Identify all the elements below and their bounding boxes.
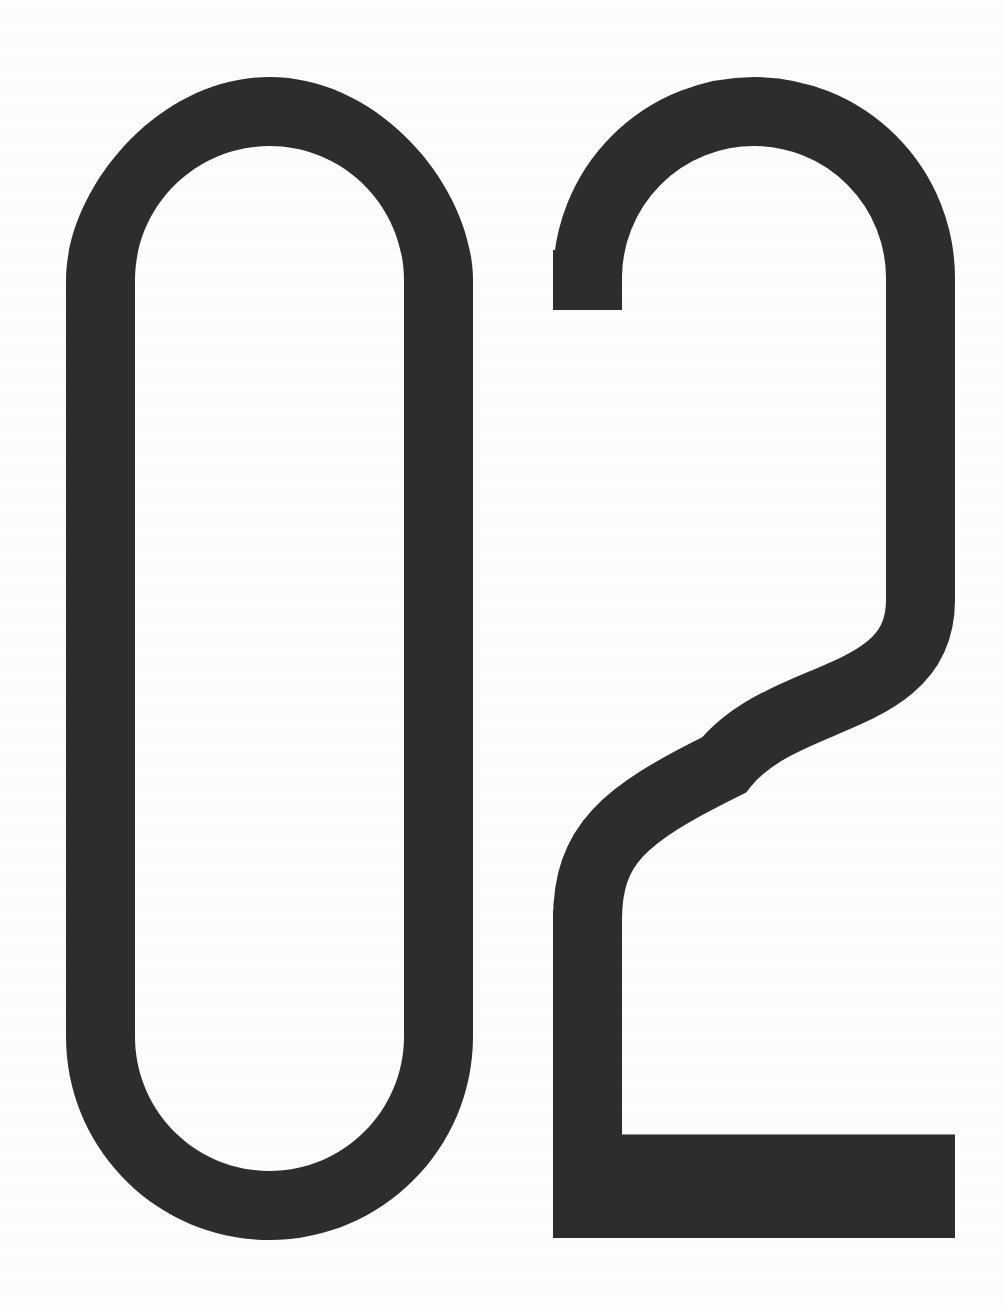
- page-canvas: 02: [0, 0, 1005, 1305]
- numeral-two-left-stem: [553, 910, 622, 1238]
- numeral-stage: [0, 0, 1005, 1305]
- numeral-two-arch-terminal: [553, 250, 622, 310]
- numerals-artwork: [0, 0, 1005, 1305]
